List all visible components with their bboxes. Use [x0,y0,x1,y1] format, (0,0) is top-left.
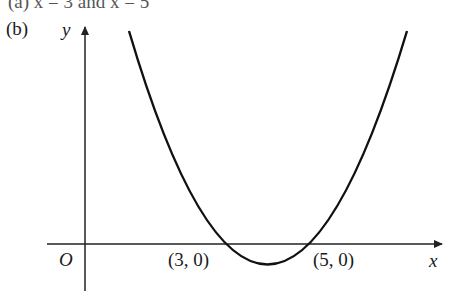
root-label-5: (5, 0) [313,249,354,271]
root-label-3: (3, 0) [168,249,209,271]
x-axis-label: x [429,250,437,272]
y-axis-label: y [62,19,70,41]
parabola-curve [129,31,407,265]
origin-label: O [59,249,73,271]
